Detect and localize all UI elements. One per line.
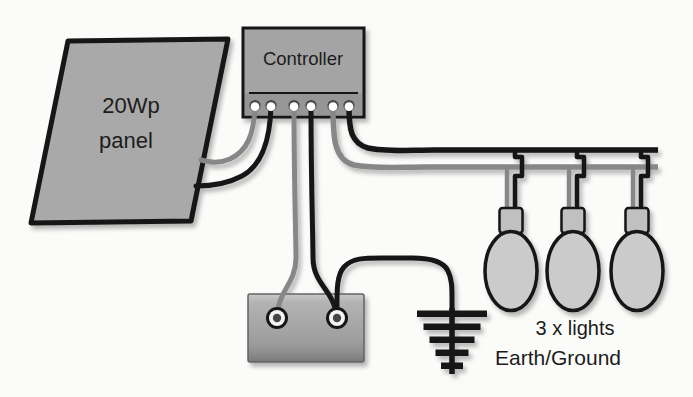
light-rail-gray [333,106,658,168]
ground-bar [436,350,469,357]
lamp-socket [562,208,585,233]
light-drop-black [577,150,584,212]
controller-terminal-5 [327,100,338,111]
earth-caption: Earth/Ground [495,346,621,369]
battery-terminal-positive [266,307,288,329]
ground-bar [430,337,475,344]
panel-label-line1: 20Wp [102,93,159,118]
ground-bar [417,311,487,318]
light-2 [547,150,599,311]
lamp-bulb [611,232,663,311]
controller-terminal-6 [343,100,354,111]
light-rail-black [349,106,658,151]
lamp-socket [626,208,649,233]
controller-terminal-4 [305,100,316,111]
controller-terminal-2 [265,100,276,111]
wiring-diagram: 20Wp panel Controller 3 x lights Earth/G… [0,0,693,397]
ground-bar [424,324,481,331]
lamp-bulb [547,232,599,311]
ground-bar [441,363,463,370]
lamp-bulb [485,232,537,311]
earth-ground-symbol [417,308,487,374]
lights-caption: 3 x lights [536,317,615,339]
controller-terminal-1 [249,100,260,111]
light-drop-black [515,150,522,212]
wire-battery-gray [278,106,296,310]
diagram-canvas: 20Wp panel Controller 3 x lights Earth/G… [0,0,693,397]
light-3 [611,150,663,311]
controller-label: Controller [263,48,343,69]
panel-label-line2: panel [99,128,153,153]
battery [248,294,364,362]
light-drop-black [641,150,648,212]
battery-terminal-negative [326,307,348,329]
controller-terminal-3 [288,100,299,111]
lamp-socket [500,208,523,233]
light-1 [485,150,537,311]
wire-battery-black [311,106,335,308]
